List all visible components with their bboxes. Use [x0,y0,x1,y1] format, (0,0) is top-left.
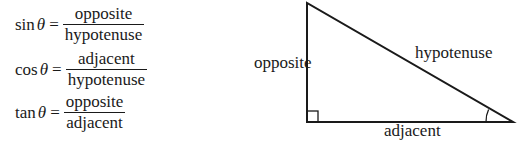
angle-theta-arc-icon [486,110,489,123]
adjacent-side-label: adjacent [384,121,441,141]
opposite-side-label: opposite [254,53,312,73]
hypotenuse-side-label: hypotenuse [415,43,492,63]
right-angle-marker-icon [307,111,318,122]
